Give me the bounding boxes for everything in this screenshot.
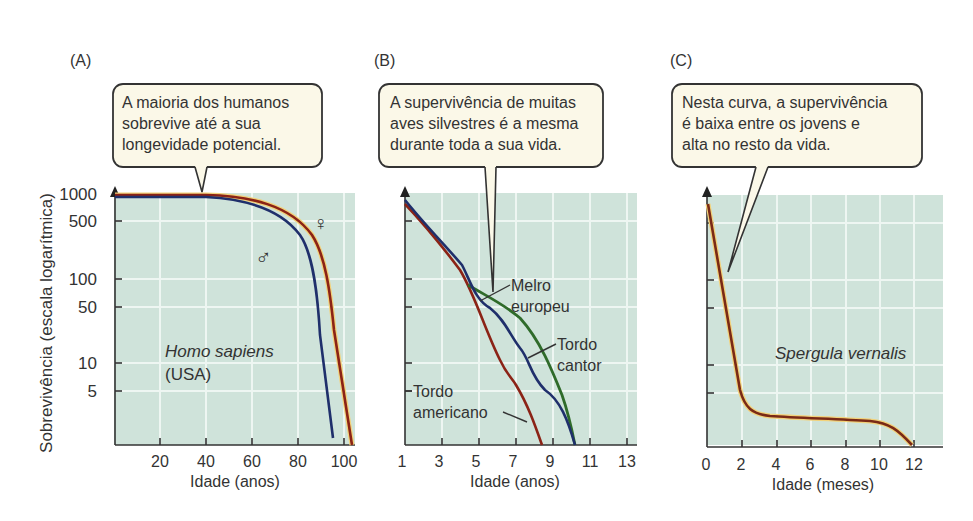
ytick-500: 500 [69,212,97,231]
female-symbol-icon: ♀ [313,212,328,234]
xtick-c-4: 4 [772,456,781,473]
xtick-a-40: 40 [197,453,215,470]
xtick-c-2: 2 [737,456,746,473]
callout-b-line-1: A supervivência de muitas [390,92,579,113]
panel-letter-a: (A) [70,52,91,69]
xtick-b-3: 3 [435,453,444,470]
label-melro-1: Melro [511,277,551,294]
xtick-b-13: 13 [618,453,636,470]
callout-b-line-2: aves silvestres é a mesma [390,113,579,134]
xtick-c-12: 12 [905,456,923,473]
xtick-b-7: 7 [509,453,518,470]
y-axis-label: Sobrevivência (escala logarítmica) [37,193,56,453]
xtick-a-20: 20 [151,453,169,470]
ytick-10: 10 [78,354,97,373]
callout-a-line-2: sobrevive até a sua [122,113,289,134]
label-cantor-1: Tordo [557,336,597,353]
xtick-b-11: 11 [582,453,599,470]
callout-text-c: Nesta curva, a supervivência é baixa ent… [682,92,887,155]
region-label-a: (USA) [165,365,211,384]
ytick-50: 50 [78,298,97,317]
xtick-b-9: 9 [546,453,555,470]
callout-a-line-1: A maioria dos humanos [122,92,289,113]
y-axis-arrow-icon [702,186,712,197]
callout-text-a: A maioria dos humanos sobrevive até a su… [122,92,289,155]
male-symbol-icon: ♂ [255,245,272,270]
x-axis-label-b: Idade (anos) [470,473,560,490]
label-melro-2: europeu [511,298,570,315]
x-axis-label-a: Idade (anos) [190,473,280,490]
callout-c-line-2: é baixa entre os jovens e [682,113,887,134]
callout-a-line-3: longevidade potencial. [122,134,289,155]
xtick-c-10: 10 [870,456,888,473]
callout-c-line-3: alta no resto da vida. [682,134,887,155]
callout-b-line-3: durante toda a sua vida. [390,134,579,155]
y-axis-arrow-icon [400,186,410,197]
label-americano-2: americano [413,404,488,421]
panel-letter-c: (C) [670,52,692,69]
xtick-a-60: 60 [243,453,261,470]
label-cantor-2: cantor [557,357,602,374]
panel-letter-b: (B) [374,52,395,69]
callout-text-b: A supervivência de muitas aves silvestre… [390,92,579,155]
xtick-c-0: 0 [702,456,711,473]
xtick-b-1: 1 [398,453,407,470]
survivorship-figure: 1000 500 100 50 10 5 Sobrevivência (esca… [0,0,973,521]
ytick-100: 100 [69,270,97,289]
species-label-a: Homo sapiens [165,342,274,361]
xtick-c-6: 6 [806,456,815,473]
xtick-a-100: 100 [331,453,358,470]
x-axis-label-c: Idade (meses) [772,476,874,493]
species-label-c: Spergula vernalis [775,344,907,363]
ytick-1000: 1000 [59,185,97,204]
callout-c-line-1: Nesta curva, a supervivência [682,92,887,113]
xtick-c-8: 8 [841,456,850,473]
label-americano-1: Tordo [413,383,453,400]
xtick-b-5: 5 [472,453,481,470]
ytick-5: 5 [88,382,97,401]
xtick-a-80: 80 [289,453,307,470]
